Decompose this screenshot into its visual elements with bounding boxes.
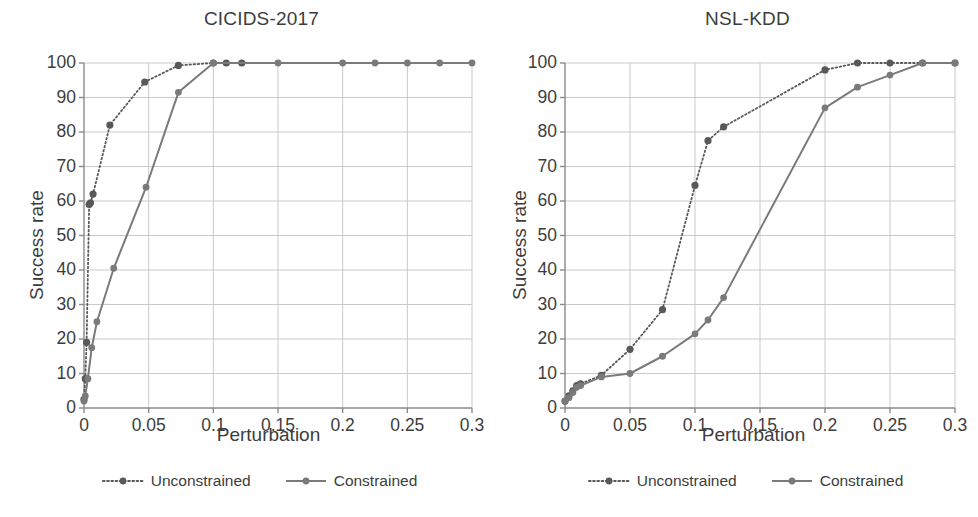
y-tick-label: 50 (511, 225, 557, 246)
data-point-constrained (84, 375, 91, 382)
legend-right: Unconstrained Constrained (489, 472, 978, 490)
x-tick-label: 0.3 (925, 415, 978, 436)
x-tick-label: 0 (54, 415, 114, 436)
y-tick-label: 100 (30, 52, 76, 73)
y-tick-label: 20 (30, 328, 76, 349)
data-point-unconstrained (821, 66, 828, 73)
data-point-constrained (692, 330, 699, 337)
y-tick-label: 90 (30, 87, 76, 108)
data-point-constrained (94, 318, 101, 325)
data-point-constrained (659, 353, 666, 360)
data-point-constrained (952, 60, 959, 67)
legend-swatch-constrained-solid-icon (285, 475, 327, 487)
x-tick-label: 0.05 (600, 415, 660, 436)
data-point-constrained (339, 60, 346, 67)
y-tick-label: 70 (511, 156, 557, 177)
data-point-constrained (210, 60, 217, 67)
data-point-constrained (275, 60, 282, 67)
data-point-constrained (598, 374, 605, 381)
y-tick-label: 80 (30, 121, 76, 142)
x-tick-label: 0.15 (248, 415, 308, 436)
y-tick-label: 90 (511, 87, 557, 108)
figure-two-panel-line-charts: CICIDS-2017 Success rate Perturbation 01… (0, 0, 978, 517)
data-point-constrained (110, 265, 117, 272)
x-tick-label: 0.25 (860, 415, 920, 436)
data-point-unconstrained (89, 191, 96, 198)
legend-label-unconstrained-right: Unconstrained (637, 472, 737, 490)
data-point-unconstrained (141, 78, 148, 85)
data-point-unconstrained (704, 137, 711, 144)
x-tick-label: 0.05 (119, 415, 179, 436)
y-tick-label: 30 (511, 294, 557, 315)
data-point-constrained (577, 382, 584, 389)
x-tick-label: 0.25 (377, 415, 437, 436)
legend-swatch-constrained-solid-icon (771, 475, 813, 487)
data-point-unconstrained (626, 346, 633, 353)
data-point-constrained (143, 184, 150, 191)
data-point-constrained (919, 60, 926, 67)
x-tick-label: 0.2 (795, 415, 855, 436)
y-tick-label: 20 (511, 328, 557, 349)
y-tick-label: 40 (511, 259, 557, 280)
legend-label-unconstrained-left: Unconstrained (151, 472, 251, 490)
panel-nsl-kdd: NSL-KDD Success rate Perturbation 010203… (489, 0, 978, 517)
x-tick-label: 0.1 (183, 415, 243, 436)
y-tick-label: 10 (30, 363, 76, 384)
legend-label-constrained-left: Constrained (334, 472, 418, 490)
x-tick-label: 0.15 (730, 415, 790, 436)
data-point-unconstrained (83, 339, 90, 346)
y-tick-label: 60 (30, 190, 76, 211)
data-point-constrained (372, 60, 379, 67)
data-point-unconstrained (854, 59, 861, 66)
y-tick-label: 30 (30, 294, 76, 315)
x-tick-label: 0 (535, 415, 595, 436)
data-point-constrained (627, 370, 634, 377)
y-tick-label: 50 (30, 225, 76, 246)
y-tick-label: 70 (30, 156, 76, 177)
data-point-constrained (887, 72, 894, 79)
legend-swatch-unconstrained-dotted-icon (102, 475, 144, 487)
data-point-unconstrained (106, 122, 113, 129)
data-point-unconstrained (87, 199, 94, 206)
data-point-unconstrained (720, 123, 727, 130)
legend-item-constrained-left[interactable]: Constrained (285, 472, 418, 490)
data-point-constrained (469, 60, 476, 67)
x-tick-label: 0.1 (665, 415, 725, 436)
data-point-constrained (854, 84, 861, 91)
legend-left: Unconstrained Constrained (0, 472, 489, 490)
data-point-constrained (88, 344, 95, 351)
data-point-constrained (175, 89, 182, 96)
data-point-constrained (82, 393, 89, 400)
data-point-constrained (720, 294, 727, 301)
y-tick-label: 60 (511, 190, 557, 211)
y-tick-label: 40 (30, 259, 76, 280)
data-point-unconstrained (886, 59, 893, 66)
panel-cicids-2017: CICIDS-2017 Success rate Perturbation 01… (0, 0, 489, 517)
legend-item-unconstrained-right[interactable]: Unconstrained (588, 472, 737, 490)
y-tick-label: 10 (511, 363, 557, 384)
data-point-constrained (404, 60, 411, 67)
data-point-constrained (822, 104, 829, 111)
series-line-unconstrained (84, 63, 242, 399)
legend-item-unconstrained-left[interactable]: Unconstrained (102, 472, 251, 490)
y-tick-label: 100 (511, 52, 557, 73)
legend-label-constrained-right: Constrained (820, 472, 904, 490)
data-point-constrained (436, 60, 443, 67)
y-tick-label: 80 (511, 121, 557, 142)
legend-item-constrained-right[interactable]: Constrained (771, 472, 904, 490)
x-tick-label: 0.2 (313, 415, 373, 436)
legend-swatch-unconstrained-dotted-icon (588, 475, 630, 487)
data-point-constrained (705, 317, 712, 324)
data-point-unconstrained (691, 182, 698, 189)
data-point-unconstrained (659, 306, 666, 313)
plot-area-nsl-kdd (489, 0, 978, 517)
data-point-unconstrained (175, 62, 182, 69)
